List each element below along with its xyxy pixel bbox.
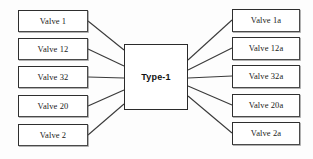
left-connector-0 <box>88 21 124 50</box>
left-connector-group <box>88 21 124 135</box>
right-node-0[interactable]: Valve 1a <box>232 9 300 32</box>
right-node-3[interactable]: Valve 20a <box>232 94 300 117</box>
left-node-0[interactable]: Valve 1 <box>18 10 88 32</box>
left-node-3[interactable]: Valve 20 <box>18 95 88 117</box>
left-node-label: Valve 32 <box>38 73 69 82</box>
right-node-label: Valve 2a <box>251 129 281 138</box>
center-node-type-1[interactable]: Type-1 <box>124 44 188 110</box>
left-node-label: Valve 2 <box>40 131 66 140</box>
left-node-4[interactable]: Valve 2 <box>18 124 88 146</box>
center-node-label: Type-1 <box>141 72 171 82</box>
left-connector-2 <box>88 77 124 78</box>
right-connector-4 <box>188 96 232 133</box>
right-node-label: Valve 32a <box>249 72 284 81</box>
right-connector-0 <box>188 20 232 60</box>
right-node-1[interactable]: Valve 12a <box>232 37 300 60</box>
left-node-2[interactable]: Valve 32 <box>18 66 88 88</box>
diagram-canvas: Valve 1Valve 12Valve 32Valve 20Valve 2 V… <box>0 0 313 159</box>
left-node-label: Valve 20 <box>38 102 69 111</box>
right-node-4[interactable]: Valve 2a <box>232 122 300 145</box>
right-node-label: Valve 1a <box>251 16 281 25</box>
right-node-2[interactable]: Valve 32a <box>232 65 300 88</box>
left-node-label: Valve 12 <box>38 45 69 54</box>
right-connector-1 <box>188 48 232 70</box>
left-connector-4 <box>88 104 124 135</box>
left-connector-1 <box>88 49 124 66</box>
left-node-label: Valve 1 <box>40 17 66 26</box>
right-node-label: Valve 12a <box>249 44 284 53</box>
right-connector-2 <box>188 76 232 78</box>
left-connector-3 <box>88 90 124 106</box>
right-node-label: Valve 20a <box>249 101 284 110</box>
right-connector-group <box>188 20 232 133</box>
left-node-1[interactable]: Valve 12 <box>18 38 88 60</box>
